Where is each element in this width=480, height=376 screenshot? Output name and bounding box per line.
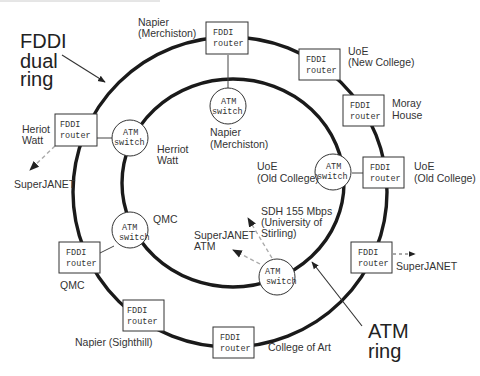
svg-text:FDDI: FDDI xyxy=(66,248,86,258)
svg-text:switch: switch xyxy=(114,138,145,148)
svg-text:FDDI: FDDI xyxy=(358,248,378,258)
atm-label-line2: ring xyxy=(368,340,401,362)
label-switch-napier-merchiston-1: Napier xyxy=(210,126,241,138)
label-router-college-of-art: College of Art xyxy=(268,341,331,353)
svg-text:router: router xyxy=(66,259,97,269)
link-qmc xyxy=(100,246,114,253)
svg-text:FDDI: FDDI xyxy=(220,333,240,343)
label-switch-qmc: QMC xyxy=(153,213,178,225)
label-router-heriot-watt-2: Watt xyxy=(22,134,43,146)
svg-text:ATM: ATM xyxy=(122,223,137,233)
svg-text:switch: switch xyxy=(266,277,297,287)
label-superjanet-atm-2: ATM xyxy=(194,240,215,252)
svg-text:router: router xyxy=(350,112,381,122)
svg-text:ATM: ATM xyxy=(265,267,280,277)
svg-text:FDDI: FDDI xyxy=(60,120,80,130)
svg-text:ATM: ATM xyxy=(326,162,341,172)
heriot-watt-superjanet-link xyxy=(30,146,55,170)
router-moray-house[interactable]: FDDI router xyxy=(343,95,384,126)
atm-label-line1: ATM xyxy=(368,320,409,342)
label-router-uoe-new-college-2: (New College) xyxy=(348,56,415,68)
fddi-label-line1: FDDI xyxy=(20,30,67,52)
svg-text:router: router xyxy=(358,259,389,269)
router-college-of-art[interactable]: FDDI router xyxy=(213,327,254,358)
svg-text:FDDI: FDDI xyxy=(370,163,390,173)
svg-text:switch: switch xyxy=(317,172,348,182)
svg-text:FDDI: FDDI xyxy=(127,306,147,316)
svg-text:router: router xyxy=(127,317,158,327)
label-router-napier-sighthill: Napier (Sighthill) xyxy=(75,336,153,348)
label-router-superjanet-east: SuperJANET xyxy=(396,260,458,272)
svg-text:FDDI: FDDI xyxy=(350,101,370,111)
label-router-qmc: QMC xyxy=(60,279,85,291)
label-switch-uoe-old-college-1: UoE xyxy=(257,160,277,172)
network-diagram: FDDI dual ring ATM ring FDDI router FDDI… xyxy=(0,0,480,376)
label-switch-herriot-watt-2: Watt xyxy=(157,154,178,166)
svg-text:FDDI: FDDI xyxy=(306,55,326,65)
label-sdh-3: Stirling) xyxy=(261,227,297,239)
label-router-moray-house-2: House xyxy=(392,109,423,121)
svg-text:router: router xyxy=(306,66,337,76)
label-router-napier-merchiston-2: (Merchiston) xyxy=(138,27,196,39)
svg-text:router: router xyxy=(370,174,401,184)
svg-text:router: router xyxy=(213,39,244,49)
router-qmc[interactable]: FDDI router xyxy=(59,242,100,273)
label-heriot-watt-superjanet: SuperJANET xyxy=(14,178,76,190)
switch-herriot-watt[interactable]: ATM switch xyxy=(112,120,148,156)
label-router-moray-house-1: Moray xyxy=(392,97,422,109)
fddi-label-line3: ring xyxy=(20,68,53,90)
switch-stirling[interactable]: ATM switch xyxy=(259,259,297,295)
switch-uoe-old-college[interactable]: ATM switch xyxy=(315,154,351,190)
fddi-pointer-arrow xyxy=(62,55,105,82)
svg-text:switch: switch xyxy=(212,107,243,117)
router-uoe-old-college[interactable]: FDDI router xyxy=(363,157,404,188)
svg-text:router: router xyxy=(60,131,91,141)
svg-text:ATM: ATM xyxy=(221,97,236,107)
superjanet-atm-link xyxy=(233,250,260,264)
svg-text:ATM: ATM xyxy=(123,128,138,138)
svg-text:FDDI: FDDI xyxy=(213,28,233,38)
svg-text:switch: switch xyxy=(119,233,150,243)
label-switch-uoe-old-college-2: (Old College) xyxy=(257,172,319,184)
switch-qmc[interactable]: ATM switch xyxy=(112,212,150,248)
fddi-dual-ring xyxy=(73,37,387,347)
label-switch-napier-merchiston-2: (Merchiston) xyxy=(210,138,268,150)
router-superjanet-east[interactable]: FDDI router xyxy=(351,242,392,273)
router-uoe-new-college[interactable]: FDDI router xyxy=(299,49,340,80)
router-napier-merchiston[interactable]: FDDI router xyxy=(206,22,248,54)
router-heriot-watt[interactable]: FDDI router xyxy=(55,114,97,146)
svg-text:router: router xyxy=(220,344,251,354)
label-router-uoe-old-college-2: (Old College) xyxy=(414,172,476,184)
switch-napier-merchiston[interactable]: ATM switch xyxy=(210,88,246,124)
label-router-uoe-old-college-1: UoE xyxy=(414,160,434,172)
router-napier-sighthill[interactable]: FDDI router xyxy=(123,300,164,331)
